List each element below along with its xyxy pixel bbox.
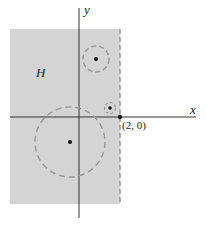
- boundary-point-label: (2, 0): [122, 119, 146, 131]
- diagram-canvas: [0, 0, 207, 227]
- center-dot-small: [108, 106, 112, 110]
- x-axis-label: x: [190, 102, 196, 118]
- center-dot-large: [68, 140, 72, 144]
- region-label: H: [36, 65, 45, 81]
- center-dot-upper: [94, 57, 98, 61]
- y-axis-label: y: [84, 2, 90, 18]
